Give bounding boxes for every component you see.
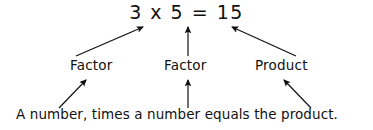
arrow-factor-left-to-three-icon [76,27,143,56]
arrow-sentence-to-product-icon [284,80,311,108]
arrow-sentence-to-factor-left-icon [59,80,86,108]
arrow-product-to-fifteen-icon [232,27,296,56]
diagram-canvas: 3 x 5 = 15 Factor Factor Product A numbe… [0,0,373,130]
arrow-layer [0,0,373,130]
